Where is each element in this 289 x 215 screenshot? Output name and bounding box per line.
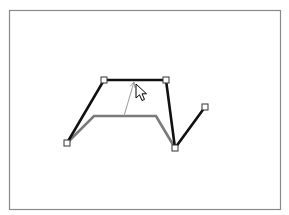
diagram-canvas: [0, 0, 289, 215]
vertex-handle-2[interactable]: [101, 77, 107, 83]
frame-border: [10, 11, 281, 210]
vertex-handle-3[interactable]: [163, 77, 169, 83]
vertex-handle-4[interactable]: [172, 145, 178, 151]
vertex-handle-1[interactable]: [64, 140, 70, 146]
vertex-handle-5[interactable]: [202, 104, 208, 110]
